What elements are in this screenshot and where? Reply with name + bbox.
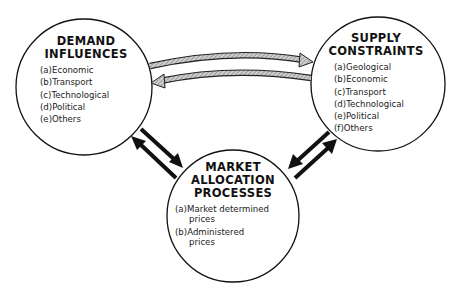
market-allocation-node: MARKET ALLOCATION PROCESSES (a)Market de… — [175, 161, 300, 247]
market-item-a-line1: (a)Market determined — [175, 204, 269, 214]
market-item-market-determined: (a)Market determined prices — [175, 204, 300, 224]
supply-item-economic: (b)Economic — [334, 73, 444, 85]
supply-item-technological: (d)Technological — [334, 98, 444, 110]
supply-item-others: (f)Others — [334, 122, 444, 134]
supply-title: SUPPLY CONSTRAINTS — [324, 32, 428, 58]
supply-item-geological: (a)Geological — [334, 61, 444, 73]
supply-item-transport: (c)Transport — [334, 86, 444, 98]
market-item-b-line1: (b)Administered — [175, 227, 244, 237]
demand-item-technological: (c)Technological — [40, 89, 140, 101]
market-item-a-line2: prices — [175, 214, 300, 224]
arrow-demand-to-supply — [150, 53, 313, 67]
arrow-supply-to-demand — [151, 73, 311, 88]
demand-influences-node: DEMAND INFLUENCES (a)Economic (b)Transpo… — [40, 35, 140, 125]
demand-item-economic: (a)Economic — [40, 64, 140, 76]
market-item-b-line2: prices — [175, 237, 300, 247]
demand-item-others: (e)Others — [40, 113, 140, 125]
demand-items: (a)Economic (b)Transport (c)Technologica… — [40, 64, 140, 125]
supply-constraints-node: SUPPLY CONSTRAINTS (a)Geological (b)Econ… — [324, 32, 444, 135]
market-title-line3: PROCESSES — [175, 187, 291, 200]
demand-title-line2: INFLUENCES — [40, 48, 132, 61]
demand-item-transport: (b)Transport — [40, 76, 140, 88]
market-items: (a)Market determined prices (b)Administe… — [175, 204, 300, 247]
demand-item-political: (d)Political — [40, 101, 140, 113]
market-item-administered: (b)Administered prices — [175, 227, 300, 247]
market-title: MARKET ALLOCATION PROCESSES — [175, 161, 291, 200]
demand-title: DEMAND INFLUENCES — [40, 35, 132, 61]
supply-items: (a)Geological (b)Economic (c)Transport (… — [324, 61, 444, 135]
supply-item-political: (e)Political — [334, 110, 444, 122]
supply-title-line2: CONSTRAINTS — [324, 45, 428, 58]
